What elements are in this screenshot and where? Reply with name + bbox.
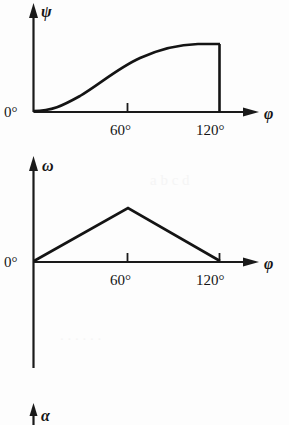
omega-tick-label-60: 60° [110, 272, 131, 288]
three-panel-kinematic-diagram: a b c d . . . . . . ψ φ 0° 60° 120° [0, 0, 289, 425]
psi-axis-label: ψ [41, 3, 52, 21]
omega-axis-arrowhead-icon [29, 156, 38, 171]
omega-origin-label: 0° [4, 254, 18, 270]
omega-axis-label: ω [42, 157, 54, 174]
omega-tick-label-120: 120° [196, 272, 225, 288]
psi-tick-label-60: 60° [110, 122, 131, 138]
alpha-chart: α [30, 403, 52, 425]
psi-axis-arrowhead-icon [29, 3, 38, 18]
omega-chart: ω φ 0° 60° 120° [4, 156, 273, 368]
alpha-axis-arrowhead-icon [30, 403, 38, 416]
phi-axis-label-1: φ [264, 105, 273, 123]
svg-text:. . . . . .: . . . . . . [60, 327, 101, 343]
phi-axis-label-2: φ [264, 255, 273, 273]
alpha-axis-label: α [41, 407, 51, 424]
phi-axis-arrowhead-icon-2 [243, 258, 259, 267]
psi-chart: ψ φ 0° 60° 120° [4, 3, 273, 138]
svg-text:a b c d: a b c d [150, 172, 190, 188]
scan-bleed-artifact: a b c d . . . . . . [60, 172, 190, 343]
psi-origin-label: 0° [4, 104, 18, 120]
figure-canvas: a b c d . . . . . . ψ φ 0° 60° 120° [0, 0, 289, 425]
psi-tick-label-120: 120° [196, 122, 225, 138]
psi-curve [34, 44, 221, 111]
phi-axis-arrowhead-icon-1 [243, 108, 259, 117]
